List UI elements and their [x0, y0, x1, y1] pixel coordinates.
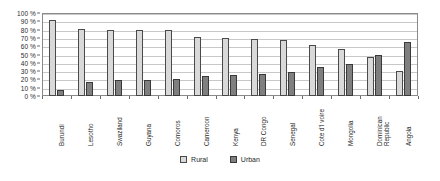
y-axis-tick-mark [37, 46, 40, 47]
bar-group [302, 13, 331, 96]
bar-urban [144, 80, 151, 96]
chart-legend: RuralUrban [0, 156, 440, 163]
bar-group [129, 13, 158, 96]
y-axis-tick-mark [37, 37, 40, 38]
y-axis-tick-label: 30 % [21, 68, 36, 75]
x-axis-category-label: Angola [406, 100, 413, 146]
x-axis-tick-mark [129, 96, 130, 99]
bar-urban [346, 64, 353, 96]
bar-group [71, 13, 100, 96]
y-axis-tick-label: 10 % [21, 84, 36, 91]
bar-group [42, 13, 71, 96]
y-axis-tick-label: 60 % [21, 43, 36, 50]
x-axis-category-label: Cote d'I voire [319, 100, 326, 146]
x-axis-tick-mark [273, 96, 274, 99]
x-axis-category-label: Dominican Republic [377, 100, 391, 146]
y-axis-tick-mark [37, 21, 40, 22]
legend-item-urban[interactable]: Urban [230, 156, 260, 163]
x-axis-tick-mark [100, 96, 101, 99]
x-axis-tick-mark [187, 96, 188, 99]
bar-rural [194, 37, 201, 96]
x-axis-category-label: Cameroon [204, 100, 211, 146]
x-axis-tick-mark [302, 96, 303, 99]
bar-urban [317, 67, 324, 96]
bar-rural [309, 45, 316, 96]
x-axis-category-label: Mongolia [348, 100, 355, 146]
bar-rural [136, 30, 143, 96]
bar-rural [396, 71, 403, 96]
y-axis-tick-mark [37, 79, 40, 80]
bar-chart: 100 %90 %80 %70 %60 %50 %40 %30 %20 %10 … [0, 0, 440, 181]
bar-urban [259, 74, 266, 96]
x-axis-tick-mark [389, 96, 390, 99]
x-axis-tick-mark [244, 96, 245, 99]
bar-group [360, 13, 389, 96]
bar-rural [78, 29, 85, 96]
bar-rural [49, 20, 56, 96]
y-axis-tick-label: 50 % [21, 51, 36, 58]
x-axis-labels: BurundiLesothoSwazilandGuyanaComorosCame… [42, 100, 418, 146]
bar-urban [173, 79, 180, 96]
y-axis: 100 %90 %80 %70 %60 %50 %40 %30 %20 %10 … [0, 13, 40, 96]
bar-rural [222, 38, 229, 96]
y-axis-tick-mark [37, 71, 40, 72]
x-axis-tick-mark [71, 96, 72, 99]
x-axis-tick-mark [360, 96, 361, 99]
bar-group [273, 13, 302, 96]
x-axis-category-label: Comoros [175, 100, 182, 146]
x-axis-category-label: Burundi [59, 100, 66, 146]
bar-rural [338, 49, 345, 96]
x-axis-category-label: Lesotho [88, 100, 95, 146]
x-axis-tick-mark [158, 96, 159, 99]
bar-urban [375, 55, 382, 97]
y-axis-tick-label: 70 % [21, 34, 36, 41]
x-axis-tick-mark [216, 96, 217, 99]
bar-group [187, 13, 216, 96]
legend-label: Urban [241, 156, 260, 163]
bar-urban [202, 76, 209, 96]
y-axis-tick-label: 20 % [21, 76, 36, 83]
bar-urban [404, 42, 411, 96]
bar-group [331, 13, 360, 96]
legend-swatch-urban-icon [230, 156, 237, 163]
bar-group [244, 13, 273, 96]
bar-rural [107, 30, 114, 96]
bar-rural [165, 30, 172, 96]
y-axis-tick-mark [37, 96, 40, 97]
y-axis-tick-mark [37, 62, 40, 63]
x-axis-category-label: Kenya [233, 100, 240, 146]
bar-group [158, 13, 187, 96]
bar-rural [251, 39, 258, 96]
x-axis-category-label: Swaziland [117, 100, 124, 146]
bars-layer [42, 13, 418, 96]
y-axis-tick-label: 90 % [21, 18, 36, 25]
x-axis-tick-mark [418, 96, 419, 99]
y-axis-tick-label: 0 % [24, 93, 36, 100]
bar-group [389, 13, 418, 96]
x-axis-category-label: Senegal [290, 100, 297, 146]
bar-urban [115, 80, 122, 96]
x-axis-tick-mark [331, 96, 332, 99]
bar-group [216, 13, 245, 96]
y-axis-tick-mark [37, 87, 40, 88]
y-axis-tick-label: 40 % [21, 59, 36, 66]
y-axis-tick-label: 100 % [17, 10, 36, 17]
bar-group [100, 13, 129, 96]
legend-item-rural[interactable]: Rural [180, 156, 208, 163]
x-axis-category-label: Guyana [146, 100, 153, 146]
bar-urban [230, 75, 237, 96]
bar-rural [280, 40, 287, 96]
y-axis-tick-label: 80 % [21, 26, 36, 33]
bar-urban [288, 72, 295, 96]
legend-label: Rural [191, 156, 208, 163]
x-axis-category-label: DR Congo [261, 100, 268, 146]
y-axis-tick-mark [37, 54, 40, 55]
y-axis-tick-mark [37, 29, 40, 30]
x-axis-tick-mark [42, 96, 43, 99]
legend-swatch-rural-icon [180, 156, 187, 163]
bar-urban [86, 82, 93, 96]
y-axis-tick-mark [37, 13, 40, 14]
bar-rural [367, 57, 374, 96]
